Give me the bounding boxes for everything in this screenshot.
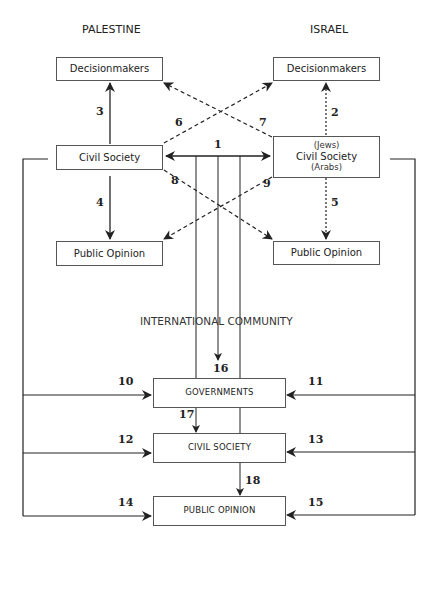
palestine-title: PALESTINE: [82, 23, 141, 36]
label-17: 17: [179, 408, 194, 421]
palestine-civil-society-box: Civil Society: [56, 145, 163, 170]
international-governments-box: GOVERNMENTS: [153, 378, 286, 408]
palestine-civil-society-label: Civil Society: [79, 152, 140, 164]
label-15: 15: [308, 496, 323, 509]
israel-title: ISRAEL: [310, 23, 348, 36]
israel-public-opinion-label: Public Opinion: [291, 247, 362, 259]
label-13: 13: [308, 433, 323, 446]
label-4: 4: [96, 196, 104, 209]
label-3: 3: [96, 105, 104, 118]
label-9: 9: [263, 177, 271, 190]
israel-decisionmakers-box: Decisionmakers: [273, 57, 380, 81]
international-public-opinion-box: PUBLIC OPINION: [153, 496, 286, 526]
palestine-decisionmakers-label: Decisionmakers: [70, 63, 149, 75]
influence-diagram: PALESTINE ISRAEL Decisionmakers Civil So…: [0, 0, 436, 592]
israel-civil-society-box: (Jews) Civil Society (Arabs): [273, 136, 380, 178]
label-14: 14: [118, 496, 133, 509]
palestine-public-opinion-box: Public Opinion: [56, 241, 163, 266]
arrow-6: [164, 83, 272, 143]
international-civil-society-box: CIVIL SOCIETY: [153, 433, 286, 463]
international-public-opinion-label: PUBLIC OPINION: [183, 506, 255, 516]
label-2: 2: [331, 106, 339, 119]
israel-decisionmakers-label: Decisionmakers: [287, 63, 366, 75]
label-7: 7: [259, 116, 267, 129]
palestine-decisionmakers-box: Decisionmakers: [56, 57, 163, 81]
label-1: 1: [214, 138, 222, 151]
israel-civil-society-jews-label: (Jews): [314, 141, 340, 151]
israel-civil-society-arabs-label: (Arabs): [311, 163, 342, 173]
international-community-title: INTERNATIONAL COMMUNITY: [140, 315, 293, 327]
label-16: 16: [213, 362, 228, 375]
international-governments-label: GOVERNMENTS: [185, 388, 253, 398]
label-5: 5: [331, 196, 339, 209]
label-10: 10: [118, 375, 133, 388]
israel-public-opinion-box: Public Opinion: [273, 241, 380, 265]
international-civil-society-label: CIVIL SOCIETY: [188, 443, 251, 453]
palestine-public-opinion-label: Public Opinion: [74, 248, 145, 260]
label-8: 8: [171, 174, 179, 187]
label-6: 6: [175, 116, 183, 129]
label-11: 11: [308, 375, 323, 388]
label-12: 12: [118, 433, 133, 446]
left-outer-line: [23, 159, 48, 516]
label-18: 18: [245, 474, 260, 487]
right-outer-line: [390, 159, 415, 515]
